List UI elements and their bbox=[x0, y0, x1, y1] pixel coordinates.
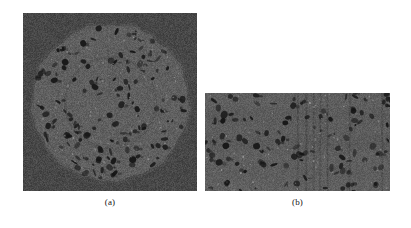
panel-b-image bbox=[205, 93, 390, 191]
panel-b-canvas bbox=[205, 93, 390, 191]
figure-container: (a) (b) bbox=[0, 0, 411, 228]
panel-a-image bbox=[23, 13, 197, 191]
panel-a-caption: (a) bbox=[23, 197, 197, 208]
panel-b-caption: (b) bbox=[205, 197, 390, 208]
panel-a-canvas bbox=[23, 13, 197, 191]
